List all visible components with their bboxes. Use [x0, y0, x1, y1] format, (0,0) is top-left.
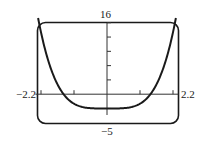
ymin-label: −5 [101, 126, 113, 137]
graph-window [0, 0, 201, 142]
axes [35, 23, 178, 115]
xmin-label: −2.2 [16, 89, 36, 100]
ymax-label: 16 [100, 9, 111, 20]
xmax-label: 2.2 [181, 89, 195, 100]
